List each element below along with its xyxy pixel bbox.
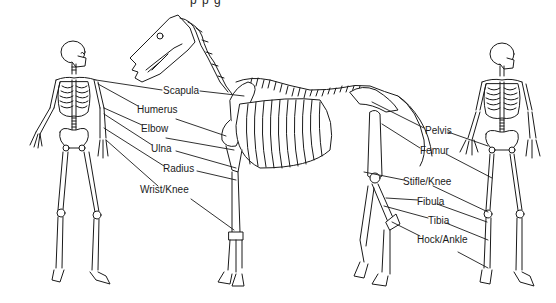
label-ulna: Ulna (151, 143, 172, 154)
label-hock-ankle: Hock/Ankle (417, 234, 468, 245)
horse-skeleton (130, 15, 432, 286)
label-radius: Radius (163, 163, 194, 174)
label-tibia: Tibia (428, 215, 449, 226)
label-femur: Femur (420, 145, 449, 156)
leader-lines-left (96, 80, 244, 230)
skeleton-illustration (0, 0, 556, 303)
label-wrist-knee: Wrist/Knee (140, 184, 189, 195)
human-skeleton-left (30, 41, 110, 284)
label-elbow: Elbow (141, 123, 168, 134)
label-scapula: Scapula (163, 85, 199, 96)
label-fibula: Fibula (417, 196, 444, 207)
comparative-anatomy-diagram: p p g (0, 0, 556, 303)
label-pelvis: Pelvis (425, 125, 452, 136)
label-stifle-knee: Stifle/Knee (403, 176, 451, 187)
human-skeleton-right (460, 43, 540, 286)
label-humerus: Humerus (137, 104, 178, 115)
